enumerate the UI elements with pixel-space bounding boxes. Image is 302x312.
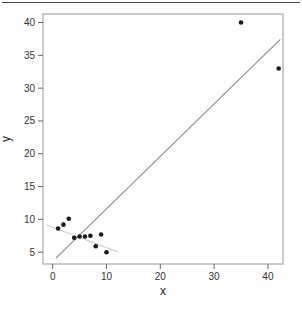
y-tick-label: 35 [24, 50, 36, 61]
data-point [72, 235, 77, 240]
data-point [61, 222, 66, 227]
scatter-plot: 010203040510152025303540 [0, 0, 302, 312]
data-point [276, 66, 281, 71]
y-tick-label: 25 [24, 115, 36, 126]
y-tick-label: 15 [24, 181, 36, 192]
data-point [88, 233, 93, 238]
document-page: 010203040510152025303540 x y [0, 0, 302, 312]
x-tick-label: 0 [50, 271, 56, 282]
y-tick-label: 40 [24, 17, 36, 28]
data-point [67, 216, 72, 221]
data-point [83, 234, 88, 239]
plot-frame [43, 14, 283, 264]
y-tick-label: 20 [24, 148, 36, 159]
data-point [77, 234, 82, 239]
data-point [99, 232, 104, 237]
y-tick-label: 30 [24, 83, 36, 94]
y-tick-label: 5 [29, 247, 35, 258]
data-point [93, 244, 98, 249]
data-point [56, 226, 61, 231]
x-tick-label: 20 [155, 271, 167, 282]
x-tick-label: 40 [262, 271, 274, 282]
x-tick-label: 30 [209, 271, 221, 282]
y-axis-title: y [0, 136, 12, 142]
x-tick-label: 10 [101, 271, 113, 282]
y-tick-label: 10 [24, 214, 36, 225]
data-point [104, 250, 109, 255]
data-point [239, 20, 244, 25]
x-axis-title: x [160, 285, 166, 297]
regression-line-fit-all-points [56, 39, 280, 258]
